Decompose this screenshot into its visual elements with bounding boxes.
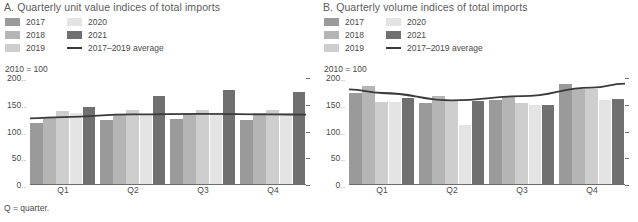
footnote: Q = quarter.: [4, 203, 49, 213]
y-axis-tick-mark-right: [306, 158, 310, 159]
x-axis-label-q1: Q1: [376, 185, 387, 195]
y-axis-tick-label: 200..: [326, 73, 345, 83]
legend-item: 2017: [324, 16, 364, 28]
y-axis-tick-label: 50..: [331, 153, 345, 163]
legend-swatch-2021: [67, 31, 82, 39]
y-axis-tick-mark-right: [625, 132, 629, 133]
y-axis-tick-label: 100..: [326, 127, 345, 137]
y-axis-tick-mark-right: [306, 185, 310, 186]
y-axis-tick-mark-right: [306, 105, 310, 106]
legend-label-average: 2017–2019 average: [88, 43, 164, 53]
y-axis-tick-label: 0..: [336, 180, 345, 190]
y-axis-tick-mark-right: [625, 185, 629, 186]
legend-item: 2017: [5, 16, 45, 28]
legend-item: 2020: [386, 16, 483, 28]
legend-swatch-2020: [386, 18, 401, 26]
y-axis-tick-mark-right: [306, 132, 310, 133]
panel-b-legend: 2017 2018 2019 2020 2021: [324, 16, 624, 56]
panel-a-plot: 0..50..100..150..200..Q1Q2Q3Q4: [30, 78, 306, 185]
legend-label-2021: 2021: [407, 30, 426, 40]
legend-item: 2021: [386, 29, 483, 41]
legend-item: 2019: [324, 42, 364, 54]
legend-item: 2019: [5, 42, 45, 54]
panel-b-plot: 0..50..100..150..200..Q1Q2Q3Q4: [349, 78, 625, 185]
legend-line-average-icon: [386, 47, 401, 49]
legend-column-1: 2017 2018 2019: [324, 16, 364, 55]
legend-line-average-icon: [67, 47, 82, 49]
legend-label-average: 2017–2019 average: [407, 43, 483, 53]
legend-swatch-2021: [386, 31, 401, 39]
legend-swatch-2019: [324, 44, 339, 52]
legend-item: 2017–2019 average: [67, 42, 164, 54]
legend-swatch-2017: [5, 18, 20, 26]
legend-item: 2017–2019 average: [386, 42, 483, 54]
x-axis-label-q2: Q2: [127, 185, 138, 195]
legend-swatch-2020: [67, 18, 82, 26]
average-line-overlay: [349, 78, 625, 185]
average-line-overlay: [30, 78, 306, 185]
x-axis-label-q3: Q3: [197, 185, 208, 195]
x-axis-label-q2: Q2: [446, 185, 457, 195]
y-axis-tick-label: 150..: [7, 100, 26, 110]
legend-label-2017: 2017: [345, 17, 364, 27]
legend-label-2021: 2021: [88, 30, 107, 40]
y-axis-tick-label: 50..: [12, 153, 26, 163]
panel-b-title: B. Quarterly volume indices of total imp…: [323, 1, 528, 13]
legend-item: 2020: [67, 16, 164, 28]
legend-swatch-2017: [324, 18, 339, 26]
panel-b: B. Quarterly volume indices of total imp…: [319, 0, 638, 200]
average-line-path: [349, 84, 625, 101]
legend-label-2018: 2018: [345, 30, 364, 40]
x-axis-label-q4: Q4: [267, 185, 278, 195]
y-axis-tick-label: 150..: [326, 100, 345, 110]
legend-label-2020: 2020: [88, 17, 107, 27]
legend-column-2: 2020 2021 2017–2019 average: [67, 16, 164, 55]
x-axis-label-q3: Q3: [516, 185, 527, 195]
legend-column-1: 2017 2018 2019: [5, 16, 45, 55]
y-axis-tick-label: 100..: [7, 127, 26, 137]
legend-label-2019: 2019: [345, 43, 364, 53]
legend-label-2019: 2019: [26, 43, 45, 53]
average-line-path: [30, 114, 306, 118]
x-axis-label-q1: Q1: [57, 185, 68, 195]
legend-swatch-2018: [324, 31, 339, 39]
legend-item: 2021: [67, 29, 164, 41]
legend-swatch-2019: [5, 44, 20, 52]
y-axis-tick-mark-right: [306, 78, 310, 79]
y-axis-tick-mark-right: [625, 78, 629, 79]
y-axis-tick-label: 0..: [17, 180, 26, 190]
legend-swatch-2018: [5, 31, 20, 39]
chart-figure: A. Quarterly unit value indices of total…: [0, 0, 638, 222]
y-axis-tick-mark-right: [625, 158, 629, 159]
legend-item: 2018: [324, 29, 364, 41]
panel-a-legend: 2017 2018 2019 2020 2021: [5, 16, 305, 56]
panel-a-title: A. Quarterly unit value indices of total…: [4, 1, 220, 13]
y-axis-tick-mark-right: [625, 105, 629, 106]
panel-a: A. Quarterly unit value indices of total…: [0, 0, 319, 200]
legend-column-2: 2020 2021 2017–2019 average: [386, 16, 483, 55]
legend-item: 2018: [5, 29, 45, 41]
x-axis-label-q4: Q4: [586, 185, 597, 195]
y-axis-tick-label: 200..: [7, 73, 26, 83]
legend-label-2017: 2017: [26, 17, 45, 27]
legend-label-2018: 2018: [26, 30, 45, 40]
legend-label-2020: 2020: [407, 17, 426, 27]
